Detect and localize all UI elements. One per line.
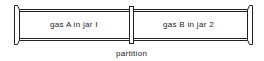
partition-label: partition [116, 49, 147, 58]
right-flange [248, 6, 253, 45]
jar1-label: gas A in jar I [50, 20, 98, 29]
jar2-label: gas B in jar 2 [163, 20, 214, 29]
left-flange [15, 6, 20, 45]
partition [130, 7, 134, 44]
